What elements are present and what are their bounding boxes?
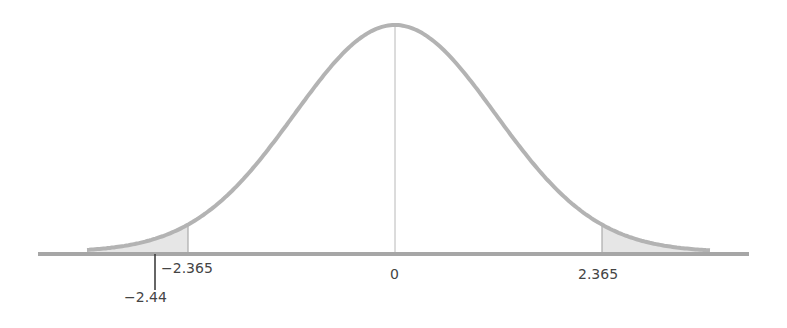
right-critical-label: 2.365 [578, 266, 618, 282]
center-label: 0 [390, 266, 399, 282]
test-statistic-label: −2.44 [124, 289, 167, 305]
left-critical-label: −2.365 [161, 260, 213, 276]
density-curve [87, 25, 710, 250]
